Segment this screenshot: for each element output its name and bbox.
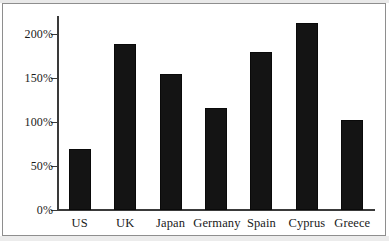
bar-uk[interactable] (114, 44, 136, 210)
bar-germany[interactable] (205, 108, 227, 210)
category-label-greece: Greece (330, 216, 375, 230)
category-label-germany: Germany (193, 216, 238, 230)
category-label-cyprus: Cyprus (284, 216, 329, 230)
y-axis-line (57, 16, 59, 211)
category-label-uk: UK (102, 216, 147, 230)
bar-spain[interactable] (250, 52, 272, 210)
bar-japan[interactable] (160, 74, 182, 210)
y-tick-label-0: 0% (37, 204, 53, 216)
y-tick-label-200: 200% (25, 28, 53, 40)
bar-chart-plot-area: 200% 150% 100% 50% 0% US UK Japan German… (0, 0, 389, 241)
bar-us[interactable] (69, 149, 91, 210)
bar-cyprus[interactable] (296, 23, 318, 210)
chart-screenshot: 200% 150% 100% 50% 0% US UK Japan German… (0, 0, 389, 241)
category-label-japan: Japan (148, 216, 193, 230)
y-tick-label-50: 50% (31, 160, 53, 172)
bar-greece[interactable] (341, 120, 363, 210)
y-tick-label-100: 100% (25, 116, 53, 128)
category-label-spain: Spain (239, 216, 284, 230)
y-tick-label-150: 150% (25, 72, 53, 84)
category-label-us: US (57, 216, 102, 230)
